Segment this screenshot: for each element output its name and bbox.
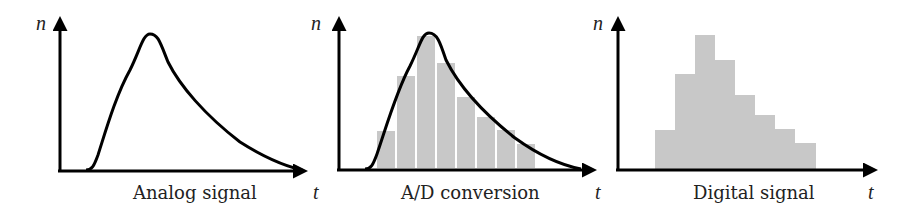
panel-digital: n Digital signal t — [593, 12, 874, 203]
panel-caption: Analog signal — [132, 182, 257, 203]
x-axis-label: t — [868, 181, 874, 203]
y-axis-label: n — [311, 12, 321, 34]
x-axis-label: t — [313, 181, 319, 203]
analog-curve — [86, 34, 302, 170]
digital-steps — [655, 35, 816, 169]
y-axis-label: n — [36, 12, 46, 34]
x-axis-label: t — [595, 181, 601, 203]
y-axis-label: n — [593, 12, 603, 34]
panel-ad-conversion: n t A/D conversion t — [311, 12, 601, 203]
panel-caption: Digital signal — [693, 182, 815, 203]
panel-caption: A/D conversion — [400, 182, 540, 203]
panel-analog: n Analog signal — [36, 12, 302, 203]
signal-conversion-diagram: n Analog signal n t A/D conversion t n D… — [0, 0, 916, 212]
sample-bars — [377, 36, 535, 168]
